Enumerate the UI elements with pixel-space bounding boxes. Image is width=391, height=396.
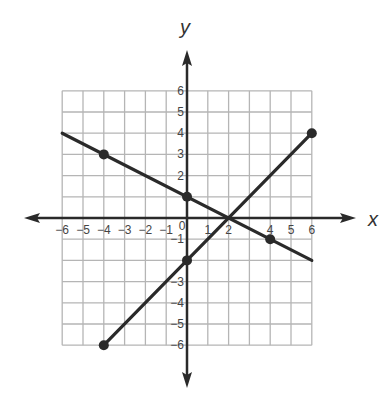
x-tick-label: 5 <box>288 223 295 237</box>
y-tick-label: 5 <box>177 105 184 119</box>
x-tick-label: −5 <box>76 223 90 237</box>
coordinate-plane: −6−5−4−3−2−101245665432−1−3−4−5−6 y x <box>0 0 391 396</box>
y-tick-label: 2 <box>177 169 184 183</box>
y-tick-label: 3 <box>177 147 184 161</box>
x-tick-label: −4 <box>97 223 111 237</box>
y-tick-label: 6 <box>177 84 184 98</box>
data-point <box>307 128 317 138</box>
data-point <box>99 340 109 350</box>
x-tick-label: −2 <box>139 223 153 237</box>
y-tick-label: −6 <box>170 338 184 352</box>
data-point <box>182 192 192 202</box>
axes <box>24 50 356 388</box>
y-axis-label: y <box>178 16 191 38</box>
data-point <box>182 255 192 265</box>
x-axis-label: x <box>367 208 379 230</box>
y-tick-label: −4 <box>170 296 184 310</box>
x-tick-label: 6 <box>308 223 315 237</box>
x-tick-label: −6 <box>55 223 69 237</box>
data-point <box>265 234 275 244</box>
y-tick-label: −5 <box>170 317 184 331</box>
x-tick-label: 0 <box>179 219 186 233</box>
y-tick-label: −1 <box>170 232 184 246</box>
data-point <box>99 149 109 159</box>
x-tick-label: 2 <box>225 223 232 237</box>
x-tick-label: −3 <box>118 223 132 237</box>
y-tick-label: 4 <box>177 126 184 140</box>
